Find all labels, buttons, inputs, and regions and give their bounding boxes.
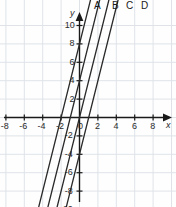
ytick-label-5: -2 — [65, 131, 73, 140]
y-axis-label: y — [70, 9, 75, 18]
xtick-label-3: -2 — [56, 122, 64, 131]
ytick-label-0: 10 — [65, 21, 75, 30]
axes — [4, 12, 172, 202]
chart-figure: -8-6-4-202468108642-2-4-6-8-10 ABCD x y — [0, 0, 176, 207]
xtick-label-7: 6 — [132, 122, 137, 131]
ytick-label-7: -6 — [65, 168, 73, 177]
x-axis-label: x — [166, 121, 171, 130]
xtick-label-0: -8 — [1, 122, 9, 131]
ytick-label-1: 8 — [70, 39, 75, 48]
ytick-label-4: 2 — [70, 95, 75, 104]
xtick-label-2: -4 — [38, 122, 46, 131]
series-label-a: A — [94, 1, 101, 11]
xtick-label-5: 2 — [95, 122, 100, 131]
data-lines — [39, 0, 118, 207]
ytick-label-3: 4 — [70, 76, 75, 85]
ytick-label-2: 6 — [70, 58, 75, 67]
ytick-label-6: -4 — [65, 150, 73, 159]
series-label-d: D — [141, 1, 148, 11]
xtick-label-0: 0 — [78, 122, 83, 131]
series-label-b: B — [112, 1, 119, 11]
coordinate-plane — [0, 0, 176, 207]
ytick-label-8: -8 — [65, 187, 73, 196]
xtick-label-1: -6 — [19, 122, 27, 131]
xtick-label-6: 4 — [114, 122, 119, 131]
xtick-label-8: 8 — [150, 122, 155, 131]
grid-lines — [0, 0, 176, 207]
series-label-c: C — [126, 1, 133, 11]
ytick-label-9: -10 — [60, 205, 73, 207]
